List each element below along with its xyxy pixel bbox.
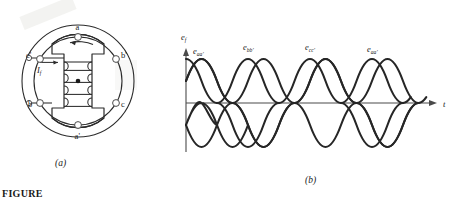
figure-container: If a b' c a' (0, 0, 473, 197)
x-axis-label: t (443, 99, 446, 109)
terminal-b-prime: b' (113, 50, 128, 63)
field-winding-left-coils (64, 62, 68, 106)
figure-number-label: FIGURE (2, 188, 43, 197)
emf-waveform-svg: ef t eaa' ebb' ecc' (160, 0, 473, 197)
waveform-eaa (186, 59, 411, 103)
flux-out-of-page-dot-icon (76, 79, 81, 84)
terminal-b-label: b (28, 99, 32, 109)
terminal-a-prime-label: a' (75, 131, 81, 141)
field-current-lead-top (26, 55, 64, 64)
machine-diagram-svg: If a b' c a' (0, 0, 160, 197)
emf-waveform-panel: ef t eaa' ebb' ecc' (160, 0, 473, 197)
rotation-direction-arrow-icon (70, 41, 93, 46)
terminal-a-label: a (75, 22, 79, 32)
panel-a-caption: (a) (55, 158, 66, 168)
waveform-ebb (186, 103, 419, 147)
y-axis-label: ef (181, 32, 188, 43)
peak-annotation-ebb: ebb' (243, 42, 254, 53)
peak-annotation-ecc: ecc' (305, 42, 316, 53)
peak-annotation-eaa-2: eaa' (367, 44, 378, 55)
field-winding-right-coils (88, 62, 92, 106)
terminal-a-prime: a' (75, 122, 82, 141)
vertical-axis (183, 48, 189, 152)
terminal-c-prime-label: c' (26, 50, 32, 60)
terminal-c-label: c (121, 99, 125, 109)
field-winding-crossbars (64, 62, 92, 106)
terminal-c: c (113, 99, 125, 109)
terminal-b: b (28, 99, 43, 109)
terminal-b-prime-label: b' (121, 50, 127, 60)
field-current-subscript: f (40, 70, 43, 76)
machine-cross-section-panel: If a b' c a' (0, 0, 160, 197)
field-current-label: If (36, 65, 43, 76)
panel-b-caption: (b) (305, 175, 316, 185)
peak-annotation-eaa-1: eaa' (193, 46, 204, 57)
